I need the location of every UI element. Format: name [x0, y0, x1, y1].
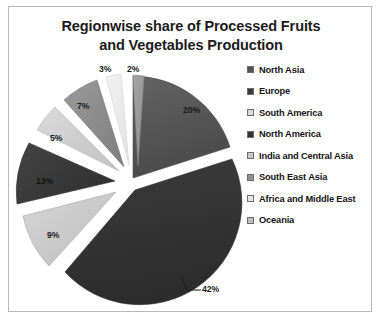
pie-value-label-north-asia: 20%	[183, 105, 200, 115]
legend-item-south-america[interactable]: South America	[247, 102, 373, 124]
chart-title: Regionwise share of Processed Fruits and…	[9, 17, 373, 55]
chart-legend: North Asia Europe South America North Am…	[247, 59, 373, 231]
legend-swatch-oceania	[247, 217, 254, 224]
legend-item-oceania[interactable]: Oceania	[247, 210, 373, 232]
legend-label-india-central-asia: India and Central Asia	[259, 151, 353, 161]
legend-label-oceania: Oceania	[259, 215, 294, 225]
pie-value-label-africa-middle-east: 5%	[50, 133, 62, 143]
chart-title-line-2: and Vegetables Production	[9, 36, 373, 55]
pie-value-label-south-east-asia: 9%	[47, 230, 59, 240]
legend-label-north-america: North America	[259, 129, 321, 139]
legend-item-south-east-asia[interactable]: South East Asia	[247, 167, 373, 189]
legend-label-africa-middle-east: Africa and Middle East	[259, 194, 355, 204]
legend-swatch-africa-middle-east	[247, 195, 254, 202]
legend-item-africa-middle-east[interactable]: Africa and Middle East	[247, 188, 373, 210]
legend-label-south-america: South America	[259, 108, 322, 118]
pie-value-label-europe: 13%	[36, 176, 53, 186]
legend-swatch-north-asia	[247, 66, 254, 73]
legend-swatch-europe	[247, 88, 254, 95]
pie-value-label-south-america: 2%	[127, 64, 139, 74]
legend-item-india-central-asia[interactable]: India and Central Asia	[247, 145, 373, 167]
pie-value-label-india-central-asia: 7%	[77, 101, 89, 111]
legend-swatch-south-east-asia	[247, 174, 254, 181]
legend-item-europe[interactable]: Europe	[247, 81, 373, 103]
legend-label-north-asia: North Asia	[259, 65, 304, 75]
chart-title-line-1: Regionwise share of Processed Fruits	[61, 18, 320, 34]
legend-item-north-asia[interactable]: North Asia	[247, 59, 373, 81]
pie-slice-north-asia[interactable]	[133, 76, 230, 178]
chart-card: Regionwise share of Processed Fruits and…	[8, 6, 372, 312]
legend-swatch-india-central-asia	[247, 152, 254, 159]
pie-chart-plot-area: 20% 42% 9% 13% 5% 7% 3% 2%	[11, 59, 243, 309]
pie-value-label-oceania: 3%	[99, 64, 111, 74]
legend-swatch-south-america	[247, 109, 254, 116]
legend-label-south-east-asia: South East Asia	[259, 172, 327, 182]
legend-item-north-america[interactable]: North America	[247, 124, 373, 146]
pie-value-label-north-america: 42%	[202, 284, 219, 294]
legend-label-europe: Europe	[259, 86, 290, 96]
legend-swatch-north-america	[247, 131, 254, 138]
